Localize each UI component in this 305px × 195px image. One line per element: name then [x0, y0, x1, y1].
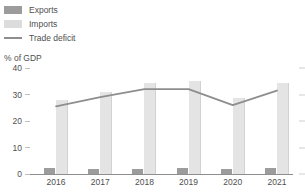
y-axis-tick-label: 10: [13, 143, 30, 153]
x-axis-tick-label: 2016: [47, 177, 66, 187]
right-axis-tick: [299, 147, 305, 148]
right-axis-tick: [299, 94, 305, 95]
plot-area: [34, 68, 299, 174]
line-swatch-icon: [4, 34, 22, 42]
trade-chart: Exports Imports Trade deficit % of GDP 0…: [0, 0, 305, 195]
x-axis-tick-label: 2018: [135, 177, 154, 187]
legend-item-exports: Exports: [4, 3, 164, 17]
trade-deficit-polyline: [56, 89, 277, 106]
y-axis-tick-label: 0: [17, 169, 30, 179]
x-axis-tick-label: 2020: [223, 177, 242, 187]
right-axis-tick: [299, 121, 305, 122]
square-swatch-light-icon: [4, 20, 22, 28]
y-axis-tick-label: 30: [13, 90, 30, 100]
x-axis-tick-label: 2017: [91, 177, 110, 187]
line-layer: [34, 68, 299, 174]
legend-item-trade-deficit: Trade deficit: [4, 31, 164, 45]
y-axis-ticks: 010203040: [0, 62, 30, 180]
x-axis-tick-label: 2019: [179, 177, 198, 187]
legend-label-imports: Imports: [29, 19, 57, 29]
y-axis-tick-label: 20: [13, 116, 30, 126]
legend-label-trade-deficit: Trade deficit: [29, 33, 75, 43]
y-axis-tick-label: 40: [13, 63, 30, 73]
legend-item-imports: Imports: [4, 17, 164, 31]
square-swatch-dark-icon: [4, 6, 22, 14]
x-axis-ticks: 201620172018201920202021: [34, 177, 299, 191]
legend-label-exports: Exports: [29, 5, 58, 15]
x-axis-tick-label: 2021: [267, 177, 286, 187]
chart-legend: Exports Imports Trade deficit: [4, 3, 164, 45]
right-axis-tick: [299, 68, 305, 69]
right-axis-tick: [299, 174, 305, 175]
x-axis-baseline: [30, 174, 293, 175]
trade-deficit-line: [34, 68, 299, 174]
